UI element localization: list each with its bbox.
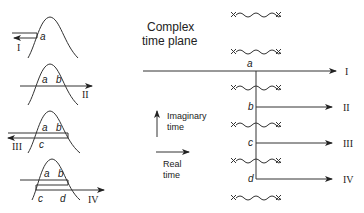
point-label: a — [42, 122, 48, 133]
contour-point-c: c — [248, 137, 253, 148]
tunneling-diagram: a I a b II a b c III a b c d IV Complex … — [0, 0, 364, 213]
point-label: a — [40, 31, 46, 42]
imaginary-label-1: Imaginary — [167, 111, 207, 121]
path-label-iv: IV — [88, 194, 99, 205]
branch-cut — [231, 49, 281, 54]
contour-point-d: d — [248, 173, 254, 184]
output-label-i: I — [345, 66, 348, 77]
path-label-i: I — [17, 42, 20, 53]
branch-cut — [231, 195, 281, 200]
contour-point-a: a — [247, 58, 253, 69]
point-label: c — [38, 193, 43, 204]
path-label-iii: III — [12, 141, 22, 152]
output-label-iii: III — [343, 138, 353, 149]
barrier-curve — [28, 64, 78, 105]
panel-iv: a b c d IV — [20, 159, 104, 205]
point-label: c — [39, 139, 44, 150]
output-label-iv: IV — [343, 174, 354, 185]
point-label: a — [42, 74, 48, 85]
panel-i: a I — [12, 17, 78, 58]
panel-iii: a b c III — [8, 111, 80, 153]
title-line-2: time plane — [142, 34, 198, 48]
point-label: d — [60, 193, 66, 204]
point-label: b — [56, 122, 62, 133]
imaginary-label-2: time — [167, 122, 184, 132]
real-label-2: time — [163, 170, 180, 180]
title-line-1: Complex — [147, 20, 194, 34]
contour-point-b: b — [248, 101, 254, 112]
path-label-ii: II — [82, 89, 89, 100]
point-label: a — [44, 168, 50, 179]
real-label-1: Real — [163, 159, 182, 169]
point-label: b — [56, 74, 62, 85]
branch-cut — [231, 12, 281, 17]
panel-ii: a b II — [20, 64, 92, 105]
barrier-curve — [28, 111, 80, 153]
output-label-ii: II — [343, 102, 350, 113]
point-label: b — [58, 168, 64, 179]
